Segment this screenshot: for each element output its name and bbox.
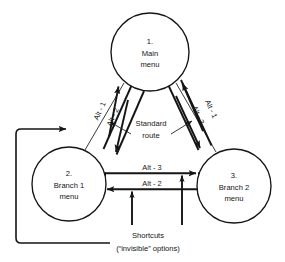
node-main-menu: 1. Main menu (111, 13, 189, 91)
node-branch1-menu: 2. Branch 1 menu (32, 147, 106, 221)
node-branch2-menu: 3. Branch 2 menu (197, 149, 271, 223)
edge-main-branch2 (169, 80, 212, 150)
diagram-canvas: 1. Main menu 2. Branch 1 menu 3. Branch … (0, 0, 285, 262)
standard-route-label-line2: route (142, 131, 159, 140)
node-main-menu-number: 1. (147, 37, 153, 46)
node-branch1-number: 2. (66, 169, 72, 178)
edge-label-left-outbound: Alt - 1 (92, 100, 108, 121)
standard-route-label-line1: Standard (136, 119, 167, 128)
node-main-menu-line2: menu (141, 60, 160, 69)
edge-label-horizontal-top: Alt - 3 (142, 163, 161, 172)
edge-label-right-inbound: Alt - 3 (190, 104, 206, 125)
menu-structure-diagram: 1. Main menu 2. Branch 1 menu 3. Branch … (0, 0, 285, 262)
annotation-standard-route: Standard route (136, 119, 167, 140)
shortcuts-label-line2: (“invisible” options) (116, 244, 180, 253)
edge-label-right-outbound: Alt - 1 (203, 98, 219, 119)
node-branch2-line2: menu (225, 194, 244, 203)
annotation-shortcuts: Shortcuts (“invisible” options) (116, 231, 180, 253)
node-branch1-line2: menu (60, 192, 79, 201)
edge-label-horizontal-bottom: Alt - 2 (142, 179, 161, 188)
shortcuts-label-line1: Shortcuts (132, 231, 164, 240)
node-branch2-number: 3. (231, 171, 237, 180)
node-branch2-line1: Branch 2 (219, 183, 249, 192)
node-main-menu-line1: Main (142, 49, 158, 58)
node-branch1-line1: Branch 1 (54, 181, 84, 190)
